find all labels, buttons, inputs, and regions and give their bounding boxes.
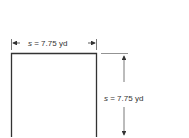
right-dimension-label: s = 7.75 yd [104, 94, 143, 103]
square-outline [12, 54, 97, 138]
square-diagram: s = 7.75 yd s = 7.75 yd [0, 0, 189, 137]
top-dimension-label: s = 7.75 yd [28, 39, 67, 48]
